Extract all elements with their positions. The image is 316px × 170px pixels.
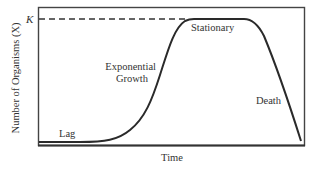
death-phase-label: Death bbox=[256, 95, 282, 106]
lag-phase-label: Lag bbox=[59, 128, 76, 139]
k-tick-label: K bbox=[25, 13, 34, 25]
y-axis-label: Number of Organisms (X) bbox=[10, 22, 22, 133]
plot-frame bbox=[39, 8, 305, 146]
exponential-phase-label-line1: Exponential bbox=[105, 61, 156, 72]
stationary-phase-label: Stationary bbox=[191, 22, 235, 33]
growth-curve-chart: K Number of Organisms (X) Time Lag Expon… bbox=[0, 0, 316, 170]
exponential-phase-label-line2: Growth bbox=[116, 73, 149, 84]
growth-curve-line bbox=[39, 19, 301, 142]
x-axis-label: Time bbox=[161, 152, 183, 163]
